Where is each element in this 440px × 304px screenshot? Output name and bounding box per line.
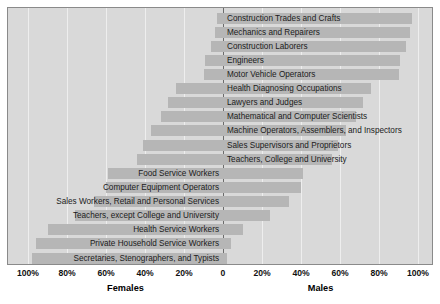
bar-segment-females	[205, 55, 223, 66]
bar-category-label: Private Household Service Workers	[90, 237, 223, 251]
x-axis-tick-label: 0	[221, 268, 226, 278]
bar-segment-females	[168, 97, 223, 108]
bar-row: Machine Operators, Assemblers, and Inspe…	[8, 124, 432, 138]
x-axis-titles: Females Males	[0, 283, 440, 297]
bar-category-label: Health Service Workers	[133, 223, 223, 237]
bar-category-label: Lawyers and Judges	[223, 96, 302, 110]
bar-segment-females	[137, 154, 223, 165]
bar-category-label: Sales Workers, Retail and Personal Servi…	[56, 195, 223, 209]
bar-category-label: Mechanics and Repairers	[223, 26, 320, 40]
bar-segment-males	[223, 182, 301, 193]
bar-row: Lawyers and Judges	[8, 96, 432, 110]
x-axis-tick-label: 60%	[331, 268, 348, 278]
x-axis-tick-label: 100%	[17, 268, 39, 278]
x-axis-tick-label: 40%	[292, 268, 309, 278]
bar-row: Construction Trades and Crafts	[8, 12, 432, 26]
bar-category-label: Construction Laborers	[223, 40, 308, 54]
bar-row: Health Service Workers	[8, 223, 432, 237]
bar-category-label: Teachers, except College and University	[73, 209, 223, 223]
bar-segment-females	[204, 69, 224, 80]
bar-segment-males	[223, 210, 270, 221]
x-axis-tick-label: 20%	[253, 268, 270, 278]
bar-segment-males	[223, 238, 231, 249]
bar-segment-males	[223, 253, 227, 264]
bar-category-label: Food Service Workers	[138, 167, 223, 181]
bar-row: Computer Equipment Operators	[8, 181, 432, 195]
diverging-bar-chart: Construction Trades and CraftsMechanics …	[0, 0, 440, 304]
bar-category-label: Construction Trades and Crafts	[223, 12, 340, 26]
bar-category-label: Mathematical and Computer Scientists	[223, 110, 367, 124]
bar-segment-females	[151, 125, 223, 136]
bar-row: Mechanics and Repairers	[8, 26, 432, 40]
bar-row: Teachers, College and University	[8, 153, 432, 167]
x-axis-tick-label: 20%	[175, 268, 192, 278]
x-axis-tick-label: 100%	[407, 268, 429, 278]
bar-segment-females	[161, 111, 223, 122]
bar-category-label: Motor Vehicle Operators	[223, 68, 315, 82]
bar-category-label: Machine Operators, Assemblers, and Inspe…	[223, 124, 402, 138]
x-axis-tick-labels: 100%80%60%40%20%020%40%60%80%100%	[0, 268, 440, 281]
plot-area: Construction Trades and CraftsMechanics …	[7, 7, 433, 265]
x-axis-tick-label: 40%	[136, 268, 153, 278]
bar-row: Construction Laborers	[8, 40, 432, 54]
axis-title-females: Females	[107, 283, 144, 293]
bar-category-label: Sales Supervisors and Proprietors	[223, 139, 351, 153]
axis-title-males: Males	[308, 283, 334, 293]
bar-row: Food Service Workers	[8, 167, 432, 181]
bar-row: Mathematical and Computer Scientists	[8, 110, 432, 124]
bar-segment-females	[143, 140, 223, 151]
bar-segment-females	[211, 41, 223, 52]
x-axis-tick-label: 80%	[58, 268, 75, 278]
bar-row: Engineers	[8, 54, 432, 68]
bar-category-label: Teachers, College and University	[223, 153, 347, 167]
x-axis-tick-label: 80%	[370, 268, 387, 278]
bar-segment-males	[223, 168, 303, 179]
bar-category-label: Secretaries, Stenographers, and Typists	[74, 252, 223, 265]
bar-category-label: Computer Equipment Operators	[103, 181, 223, 195]
x-axis-tick-label: 60%	[97, 268, 114, 278]
bar-row: Sales Workers, Retail and Personal Servi…	[8, 195, 432, 209]
bar-row: Private Household Service Workers	[8, 237, 432, 251]
bar-row: Teachers, except College and University	[8, 209, 432, 223]
bar-row: Health Diagnosing Occupations	[8, 82, 432, 96]
bar-segment-males	[223, 196, 289, 207]
bar-row: Sales Supervisors and Proprietors	[8, 139, 432, 153]
bar-segment-females	[176, 83, 223, 94]
bar-segment-females	[215, 27, 223, 38]
bar-row: Secretaries, Stenographers, and Typists	[8, 252, 432, 265]
bar-category-label: Health Diagnosing Occupations	[223, 82, 342, 96]
bar-segment-males	[223, 224, 243, 235]
bar-row: Motor Vehicle Operators	[8, 68, 432, 82]
bar-category-label: Engineers	[223, 54, 264, 68]
